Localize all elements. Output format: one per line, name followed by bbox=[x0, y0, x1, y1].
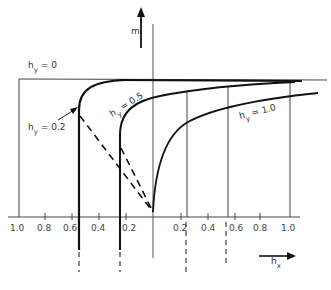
magnetization-diagram: m hx hy = 0 hy = 0.2 hy = 0.5 hy = 1.0 1… bbox=[0, 0, 331, 290]
x-axis-label: hx bbox=[271, 256, 281, 270]
y-axis-label: m bbox=[131, 26, 140, 36]
right-tick-labels: 0.2 0.4 0.6 0.8 1.0 bbox=[173, 223, 296, 233]
label-hy-0: hy = 0 bbox=[28, 60, 57, 74]
diagram-canvas: m hx hy = 0 hy = 0.2 hy = 0.5 hy = 1.0 1… bbox=[0, 0, 331, 290]
svg-text:0.6: 0.6 bbox=[229, 223, 244, 233]
svg-text:0.8: 0.8 bbox=[253, 223, 268, 233]
svg-text:0.2: 0.2 bbox=[122, 223, 136, 233]
label-hy-1.0: hy = 1.0 bbox=[238, 102, 278, 125]
svg-text:0.2: 0.2 bbox=[173, 223, 187, 233]
hx-arrow-head bbox=[287, 252, 296, 260]
label-hy-0.5: hy = 0.5 bbox=[108, 90, 147, 122]
svg-text:1.0: 1.0 bbox=[10, 223, 25, 233]
svg-text:0.4: 0.4 bbox=[201, 223, 216, 233]
svg-text:0.8: 0.8 bbox=[37, 223, 52, 233]
m-arrow-head bbox=[137, 7, 145, 17]
curve-hy-0 bbox=[19, 79, 327, 217]
left-tick-labels: 1.0 0.8 0.6 0.4 0.2 bbox=[10, 223, 136, 233]
svg-text:0.6: 0.6 bbox=[63, 223, 78, 233]
curve-hy-1.0 bbox=[153, 93, 318, 212]
reference-lines bbox=[187, 82, 290, 217]
svg-text:1.0: 1.0 bbox=[281, 223, 296, 233]
svg-text:0.4: 0.4 bbox=[91, 223, 106, 233]
label-hy-0.2: hy = 0.2 bbox=[28, 122, 65, 136]
pointer-arrow-head bbox=[70, 107, 78, 114]
